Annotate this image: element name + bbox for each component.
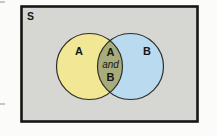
page-edge-artifact-bottom xyxy=(0,103,5,105)
sample-space-label: S xyxy=(27,10,34,22)
page: S A B A and B xyxy=(0,0,217,136)
venn-diagram: S A B A and B xyxy=(0,0,217,136)
intersection-label-line-b: B xyxy=(107,71,115,83)
intersection-label-line-a: A xyxy=(107,46,115,58)
set-a-label: A xyxy=(75,45,83,57)
set-b-label: B xyxy=(143,45,151,57)
page-edge-artifact-top xyxy=(0,1,5,3)
intersection-label-line-and: and xyxy=(102,59,119,70)
